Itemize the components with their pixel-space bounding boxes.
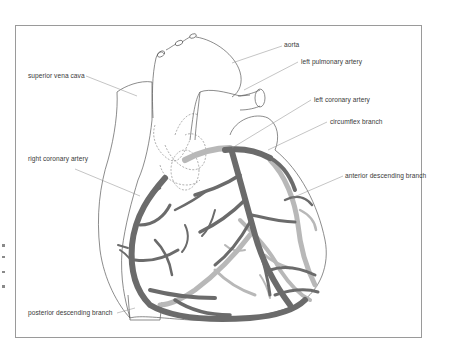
label-left-coronary-artery: left coronary artery	[314, 96, 370, 103]
label-right-coronary-artery: right coronary artery	[28, 155, 88, 162]
label-posterior-descending-branch: posterior descending branch	[28, 309, 113, 316]
label-anterior-descending-branch: anterior descending branch	[345, 172, 426, 179]
anterior-vessels	[118, 149, 318, 319]
heart-illustration	[0, 0, 450, 359]
leader-lines	[75, 46, 343, 313]
label-superior-vena-cava: superior vena cava	[28, 72, 85, 79]
label-circumflex-branch: circumflex branch	[330, 118, 383, 125]
label-left-pulmonary-artery: left pulmonary artery	[301, 58, 362, 65]
label-aorta: aorta	[284, 41, 299, 48]
